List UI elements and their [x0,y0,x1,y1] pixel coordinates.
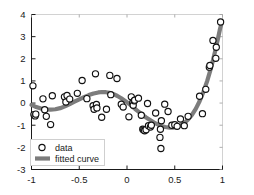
x-tick-label-1: 1 [220,174,225,185]
data-point [42,107,48,113]
data-point [174,123,180,129]
x-tick-label-0.5: 0.5 [168,174,181,185]
data-point [94,105,100,111]
data-point [203,86,209,92]
chart-legend[interactable]: data fitted curve [31,140,105,166]
data-point [185,113,191,119]
data-point [207,62,213,68]
data-point [49,93,55,99]
y-tick-label--1: -1 [17,120,25,131]
data-point [177,116,183,122]
data-point [165,108,171,114]
data-point [153,110,159,116]
data-point [84,96,90,102]
y-tick-label--3: -3 [17,164,25,175]
data-point [30,83,36,89]
y-tick-label-0: 0 [20,97,25,108]
data-point-group [30,19,224,152]
data-point [144,100,150,106]
data-point [157,134,163,140]
x-tick-label-0: 0 [124,174,129,185]
data-point [148,122,154,128]
data-point [138,112,144,118]
legend-label-fitted-curve: fitted curve [55,154,99,164]
data-point [181,123,187,129]
x-axis-tick-labels: -1-0.500.51 [27,174,225,185]
data-point [40,96,46,102]
fitted-curve-line [32,23,222,127]
scatter-plot-canvas: -3-2-101234 -1-0.500.51 data fitted curv… [0,0,254,195]
y-tick-label-4: 4 [20,9,25,20]
data-point [210,37,216,43]
y-tick-label-3: 3 [20,31,25,42]
data-point [114,75,120,81]
chart-figure: -3-2-101234 -1-0.500.51 data fitted curv… [0,0,254,195]
data-point [67,96,73,102]
x-tick-label--0.5: -0.5 [71,174,87,185]
data-point [213,44,219,50]
data-point [199,111,205,117]
data-point [157,126,163,132]
data-point [103,106,109,112]
data-point [92,71,98,77]
data-point [162,101,168,107]
y-tick-label-2: 2 [20,53,25,64]
data-point [108,92,114,98]
data-point [33,111,39,117]
x-tick-label--1: -1 [27,174,35,185]
data-point [213,55,219,61]
legend-marker-data-icon [39,144,45,150]
data-point [196,93,202,99]
data-point [43,113,49,119]
data-point [99,114,105,120]
data-point [74,90,80,96]
y-tick-label--2: -2 [17,142,25,153]
data-point [135,95,141,101]
data-point [107,72,113,78]
data-point [48,121,54,127]
y-axis-tick-labels: -3-2-101234 [17,9,25,175]
y-tick-label-1: 1 [20,75,25,86]
data-point [158,118,164,124]
data-point [158,145,164,151]
legend-label-data: data [55,143,73,153]
data-point [79,77,85,83]
data-point [126,114,132,120]
data-point [120,104,126,110]
data-point [217,19,223,25]
